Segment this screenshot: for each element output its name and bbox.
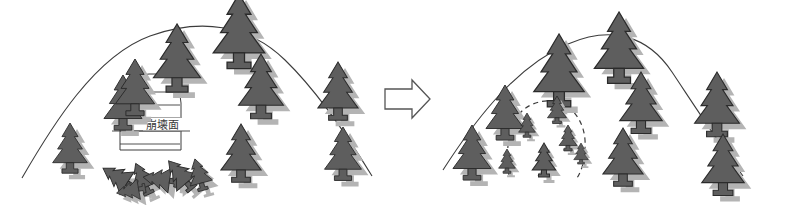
tree-group-after [453,12,751,202]
tree-group-before [53,0,369,188]
panel-after [443,12,751,202]
figure-canvas: 崩壊面 [0,0,807,205]
transition-arrow [385,80,430,118]
fallen-tree-group [96,152,221,205]
diagram-svg: 崩壊面 [0,0,807,205]
panel-before: 崩壊面 [22,0,372,205]
arrow-right-icon [385,80,430,118]
